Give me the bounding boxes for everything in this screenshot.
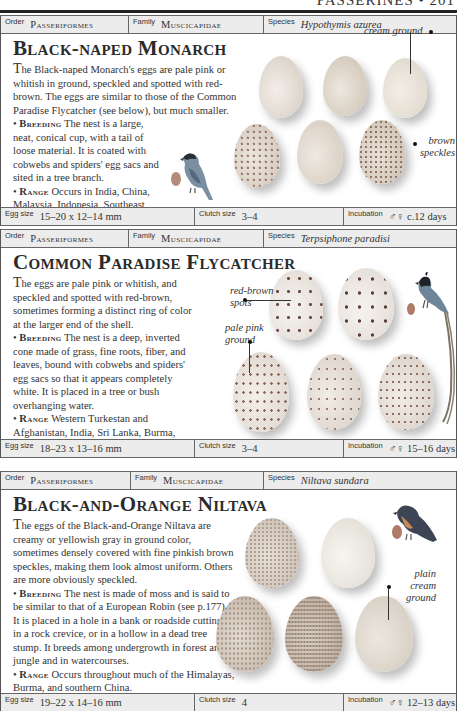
- egg-size-label: Egg size: [5, 441, 34, 450]
- family-value: Muscicapidae: [163, 475, 223, 486]
- running-head: PASSERINES • 201: [317, 0, 455, 9]
- incubation-label: Incubation: [348, 441, 383, 450]
- clutch-size-label: Clutch size: [199, 209, 236, 218]
- species-cell: Species Hypothymis azurea: [264, 16, 456, 33]
- breeding-label: Breeding: [19, 588, 61, 599]
- clutch-size-cell: Clutch size 3–4: [195, 208, 344, 225]
- family-value: Muscicapidae: [161, 233, 221, 244]
- incubation-label: Incubation: [348, 209, 383, 218]
- annotation-cream-ground: cream ground: [364, 25, 422, 37]
- annotation-text: plain cream ground: [386, 568, 436, 604]
- description-text: he eggs are pale pink or whitish, and sp…: [13, 278, 192, 330]
- family-label: Family: [133, 17, 155, 26]
- order-value: Passeriformes: [30, 19, 93, 30]
- species-label: Species: [268, 473, 295, 482]
- bird-illustration-icon: [169, 146, 219, 201]
- clutch-size-cell: Clutch size 3–4: [195, 440, 344, 457]
- order-label: Order: [5, 17, 24, 26]
- bird-illustration-icon: [389, 502, 441, 550]
- entry-description: The eggs are pale pink or whitish, and s…: [13, 276, 193, 453]
- egg-image: [234, 124, 280, 187]
- leader-line: [410, 32, 411, 74]
- leader-dot: [413, 142, 417, 146]
- egg-image: [323, 56, 367, 116]
- leader-line: [249, 343, 250, 373]
- species-cell: Species Terpsiphone paradisi: [264, 230, 456, 247]
- annotation-text: red-brown spots: [230, 285, 276, 309]
- egg-size-label: Egg size: [5, 695, 34, 704]
- incubation-cell: Incubation ♂♀ 12–13 days: [344, 694, 456, 711]
- bird-illustration-icon: [401, 272, 457, 432]
- incubation-cell: Incubation ♂♀ 15–16 days: [344, 440, 456, 457]
- clutch-size-cell: Clutch size 4: [195, 694, 344, 711]
- family-label: Family: [135, 473, 157, 482]
- annotation-text: brown speckles: [419, 135, 455, 159]
- species-label: Species: [268, 231, 295, 240]
- species-label: Species: [268, 17, 295, 26]
- egg-image: [233, 352, 289, 432]
- family-value: Muscicapidae: [161, 19, 221, 30]
- annotation-text: pale pink ground: [225, 322, 265, 346]
- description-text: he Black-naped Monarch's eggs are pale p…: [13, 64, 236, 116]
- order-cell: Order Passeriformes: [1, 16, 129, 33]
- entry-black-naped-monarch: Order Passeriformes Family Muscicapidae …: [0, 15, 457, 226]
- drop-cap: T: [13, 517, 22, 532]
- egg-image: [297, 120, 343, 184]
- stats-bar: Egg size 18–23 x 13–16 mm Clutch size 3–…: [1, 439, 456, 458]
- incubation-cell: Incubation ♂♀ c.12 days: [344, 208, 456, 225]
- annotation-pale-pink-ground: pale pink ground: [225, 322, 265, 346]
- egg-image: [359, 120, 405, 184]
- annotation-brown-speckles: brown speckles: [419, 135, 455, 159]
- entry-description: The eggs of the Black-and-Orange Niltava…: [13, 518, 235, 695]
- range-label: Range: [19, 413, 48, 424]
- egg-size-label: Egg size: [5, 209, 34, 218]
- family-cell: Family Muscicapidae: [129, 230, 264, 247]
- incubation-label: Incubation: [348, 695, 383, 704]
- incubation-value: ♂♀ 15–16 days: [389, 443, 456, 454]
- species-cell: Species Niltava sundara: [264, 472, 456, 489]
- species-value: Niltava sundara: [301, 475, 369, 486]
- leader-line: [247, 300, 291, 301]
- range-label: Range: [19, 186, 48, 197]
- egg-image: [383, 58, 427, 118]
- species-value: Terpsiphone paradisi: [301, 233, 390, 244]
- entry-title: Black-and-Orange Niltava: [13, 492, 267, 517]
- egg-image: [216, 596, 274, 672]
- drop-cap: T: [13, 61, 22, 76]
- leader-dot: [429, 30, 433, 34]
- drop-cap: T: [13, 275, 22, 290]
- order-label: Order: [5, 231, 24, 240]
- stats-bar: Egg size 19–22 x 14–16 mm Clutch size 4 …: [1, 693, 456, 711]
- egg-image: [285, 596, 343, 672]
- egg-image: [355, 596, 413, 672]
- egg-size-cell: Egg size 18–23 x 13–16 mm: [1, 440, 195, 457]
- incubation-value: ♂♀ 12–13 days: [389, 697, 456, 708]
- breeding-text: The nest is a deep, inverted cone made o…: [13, 332, 186, 411]
- order-cell: Order Passeriformes: [1, 472, 131, 489]
- clutch-size-label: Clutch size: [199, 695, 236, 704]
- clutch-size-value: 4: [242, 697, 247, 708]
- order-label: Order: [5, 473, 24, 482]
- order-cell: Order Passeriformes: [1, 230, 129, 247]
- egg-image: [269, 270, 323, 340]
- clutch-size-value: 3–4: [242, 211, 258, 222]
- egg-image: [259, 56, 303, 118]
- annotation-red-brown-spots: red-brown spots: [230, 285, 276, 309]
- breeding-text: The nest is made of moss and is said to …: [13, 588, 230, 667]
- breeding-label: Breeding: [19, 118, 61, 129]
- entry-black-and-orange-niltava: Order Passeriformes Family Muscicapidae …: [0, 471, 457, 711]
- egg-image: [321, 518, 375, 588]
- order-value: Passeriformes: [30, 233, 93, 244]
- family-cell: Family Muscicapidae: [129, 16, 264, 33]
- top-rule: [0, 10, 457, 13]
- egg-size-value: 18–23 x 13–16 mm: [40, 443, 122, 454]
- stats-bar: Egg size 15–20 x 12–14 mm Clutch size 3–…: [1, 207, 456, 226]
- taxonomy-bar: Order Passeriformes Family Muscicapidae …: [1, 471, 456, 490]
- description-text: he eggs of the Black-and-Orange Niltava …: [13, 520, 234, 585]
- egg-size-cell: Egg size 19–22 x 14–16 mm: [1, 694, 195, 711]
- family-label: Family: [133, 231, 155, 240]
- clutch-size-value: 3–4: [242, 443, 258, 454]
- entry-common-paradise-flycatcher: Order Passeriformes Family Muscicapidae …: [0, 229, 457, 458]
- egg-image: [307, 354, 361, 430]
- range-label: Range: [19, 669, 48, 680]
